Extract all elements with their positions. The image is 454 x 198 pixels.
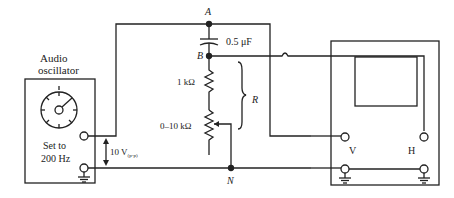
scope-v-label: V [349,145,357,156]
node-a-label: A [204,6,212,17]
resistor-fixed-label: 1 kΩ [177,77,195,87]
node-b-label: B [197,50,203,61]
capacitor-label: 0.5 μF [226,36,252,47]
node-n-label: N [226,175,235,186]
scope-h-label: H [408,145,415,156]
resistor-variable-label: 0–10 kΩ [160,121,192,131]
oscillator-setting-2: 200 Hz [41,153,71,164]
oscillator-title-2: oscillator [38,64,79,76]
brace-label: R [251,94,258,105]
labels-layer: Audio oscillator Set to 200 Hz 10 V(p-p)… [0,0,454,198]
source-voltage: 10 V(p-p) [110,147,138,158]
oscillator-setting-1: Set to [43,140,66,151]
oscillator-title-1: Audio [40,52,68,64]
